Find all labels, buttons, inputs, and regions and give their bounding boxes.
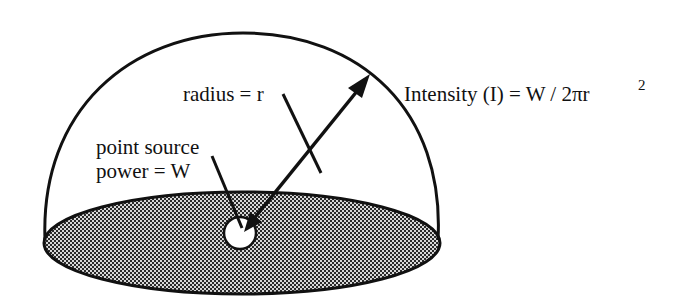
arrowhead-top-icon [348, 74, 370, 98]
intensity-formula: Intensity (I) = W / 2πr [404, 82, 590, 106]
source-label-line2: power = W [96, 159, 190, 183]
radius-label: radius = r [183, 82, 264, 106]
intensity-exponent: 2 [638, 77, 646, 93]
hemisphere-diagram: radius = r point source power = W Intens… [0, 0, 693, 305]
source-label-line1: point source [96, 135, 199, 159]
